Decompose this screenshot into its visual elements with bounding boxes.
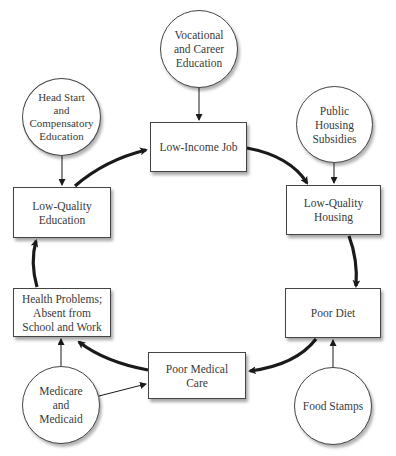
node-public-housing-subsidies: Public Housing Subsidies [296,86,373,163]
node-low-quality-education: Low-Quality Education [13,187,111,238]
arrow-education-to-job [75,150,146,186]
node-poor-medical-care: Poor Medical Care [148,352,246,399]
node-head-start: Head Start and Compensatory Education [22,78,101,156]
node-label: Poor Diet [311,306,355,320]
node-low-income-job: Low-Income Job [150,122,247,172]
node-label: Low-Quality Housing [304,196,363,224]
node-label: Poor Medical Care [166,362,228,390]
node-low-quality-housing: Low-Quality Housing [286,185,381,235]
node-label: Head Start and Compensatory Education [29,91,93,143]
node-food-stamps: Food Stamps [294,367,372,445]
arrow-medicare-to-medical [99,384,146,396]
node-label: Vocational and Career Education [174,28,224,70]
arrow-housing-to-diet [349,236,356,286]
node-label: Food Stamps [303,399,363,413]
arrow-health-to-education [33,241,37,287]
node-label: Low-Income Job [159,140,237,154]
node-label: Public Housing Subsidies [312,104,356,146]
node-vocational-career-education: Vocational and Career Education [160,10,238,88]
node-label: Medicare and Medicaid [39,384,82,426]
node-medicare-medicaid: Medicare and Medicaid [22,366,100,444]
arrow-job-to-housing [247,148,307,183]
node-poor-diet: Poor Diet [285,288,381,338]
arrow-medical-to-health [79,342,148,370]
arrow-diet-to-medical [250,339,316,371]
node-label: Health Problems; Absent from School and … [22,292,102,334]
node-label: Low-Quality Education [32,199,91,227]
node-health-problems: Health Problems; Absent from School and … [13,288,111,337]
